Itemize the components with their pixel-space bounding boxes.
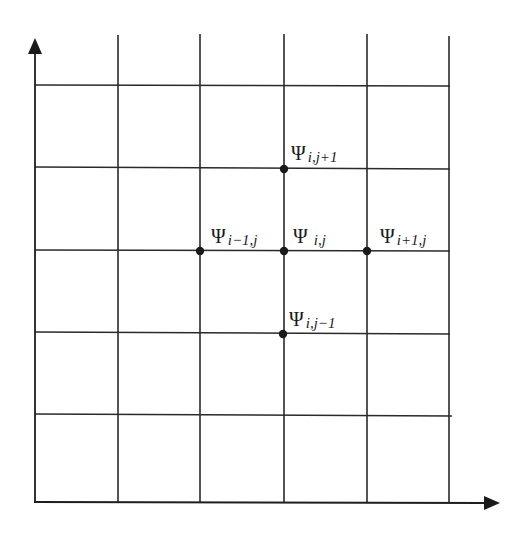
node-west [196,247,204,255]
grid-hline-3 [35,250,450,251]
grid-hline-2 [35,167,450,169]
node-center [280,247,288,255]
label-south: Ψi,j−1 [289,308,335,331]
grid-hline-5 [35,414,452,416]
grid-hline-1 [35,85,450,86]
label-west: Ψi−1,j [211,225,257,248]
node-north [280,165,288,173]
grid-hline-4 [35,332,450,334]
x-axis [34,502,486,503]
label-center: Ψi,j [293,225,326,248]
horizontal-grid-lines [35,85,452,416]
y-axis-arrow-icon [28,38,42,54]
node-east [363,247,371,255]
x-axis-arrow-icon [484,496,500,510]
node-labels: Ψi,j+1 Ψi−1,j Ψi,j Ψi+1,j Ψi,j−1 [211,142,426,331]
label-north: Ψi,j+1 [291,142,337,165]
node-south [279,330,287,338]
axes [28,38,500,510]
label-east: Ψi+1,j [380,225,426,248]
stencil-diagram: Ψi,j+1 Ψi−1,j Ψi,j Ψi+1,j Ψi,j−1 [0,0,523,536]
vertical-grid-lines [118,34,449,502]
